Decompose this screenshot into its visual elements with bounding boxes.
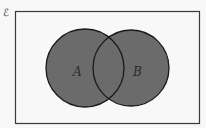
venn-diagram: ℰ A B <box>0 0 206 128</box>
set-a-label: A <box>72 65 82 79</box>
set-b-label: B <box>132 65 142 79</box>
universal-set-symbol: ℰ <box>3 7 9 18</box>
